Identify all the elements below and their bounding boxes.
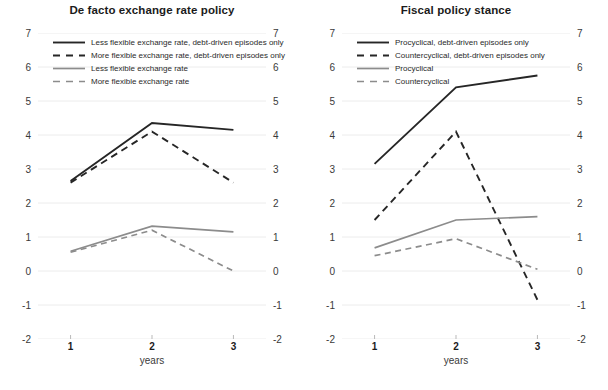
- legend-line-swatch: [52, 62, 86, 75]
- panel-fiscal-policy-stance: Fiscal policy stance -2-2-1-100112233445…: [304, 0, 608, 390]
- y-axis-tick-label-right: -1: [577, 300, 586, 311]
- legend-item: Less flexible exchange rate: [52, 62, 302, 75]
- legend-label: More flexible exchange rate, debt-driven…: [91, 49, 285, 62]
- y-axis-tick-label-left: 6: [25, 62, 31, 73]
- x-axis-tick-label: 2: [453, 341, 459, 352]
- legend-item: More flexible exchange rate, debt-driven…: [52, 49, 302, 62]
- x-axis-tick-label: 1: [372, 341, 378, 352]
- legend-line-swatch: [52, 36, 86, 49]
- series-line: [71, 230, 234, 271]
- y-axis-tick-label-left: 4: [329, 130, 335, 141]
- y-axis-tick-label-right: 3: [577, 164, 583, 175]
- y-axis-tick-label-left: 1: [25, 232, 31, 243]
- x-axis-tick-label: 3: [231, 341, 237, 352]
- legend-item: Less flexible exchange rate, debt-driven…: [52, 36, 302, 49]
- x-axis-label: years: [0, 355, 304, 366]
- x-axis-tick-label: 2: [149, 341, 155, 352]
- series-line: [375, 239, 538, 270]
- legend-line-swatch: [356, 36, 390, 49]
- y-axis-tick-label-right: 0: [273, 266, 279, 277]
- y-axis-tick-label-left: 6: [329, 62, 335, 73]
- legend-label: Less flexible exchange rate, debt-driven…: [91, 36, 284, 49]
- x-axis-tick-label: 1: [68, 341, 74, 352]
- legend-line-swatch: [356, 49, 390, 62]
- legend: Procyclical, debt-driven episodes onlyCo…: [356, 36, 606, 88]
- figure-two-panel-line-charts: De facto exchange rate policy -2-2-1-100…: [0, 0, 608, 390]
- series-line: [375, 76, 538, 164]
- series-line: [71, 132, 234, 183]
- legend-label: More flexible exchange rate: [91, 75, 189, 88]
- y-axis-tick-label-left: -1: [22, 300, 31, 311]
- y-axis-tick-label-left: 7: [329, 28, 335, 39]
- y-axis-tick-label-left: -2: [22, 334, 31, 345]
- y-axis-tick-label-left: -1: [326, 300, 335, 311]
- legend: Less flexible exchange rate, debt-driven…: [52, 36, 302, 88]
- y-axis-tick-label-left: 0: [329, 266, 335, 277]
- y-axis-tick-label-right: 2: [577, 198, 583, 209]
- legend-label: Countercyclical: [395, 75, 449, 88]
- y-axis-tick-label-left: 3: [25, 164, 31, 175]
- y-axis-tick-label-right: 3: [273, 164, 279, 175]
- y-axis-tick-label-left: 2: [25, 198, 31, 209]
- legend-label: Countercyclical, debt-driven episodes on…: [395, 49, 545, 62]
- y-axis-tick-label-left: 3: [329, 164, 335, 175]
- legend-item: Procyclical: [356, 62, 606, 75]
- panel-de-facto-exchange-rate-policy: De facto exchange rate policy -2-2-1-100…: [0, 0, 304, 390]
- y-axis-tick-label-right: -2: [577, 334, 586, 345]
- y-axis-tick-label-left: 4: [25, 130, 31, 141]
- legend-item: Countercyclical, debt-driven episodes on…: [356, 49, 606, 62]
- panel-title: De facto exchange rate policy: [0, 4, 304, 16]
- legend-item: More flexible exchange rate: [52, 75, 302, 88]
- y-axis-tick-label-left: 5: [25, 96, 31, 107]
- y-axis-tick-label-right: 4: [577, 130, 583, 141]
- legend-item: Countercyclical: [356, 75, 606, 88]
- legend-label: Less flexible exchange rate: [91, 62, 188, 75]
- y-axis-tick-label-left: 2: [329, 198, 335, 209]
- y-axis-tick-label-right: -1: [273, 300, 282, 311]
- legend-line-swatch: [52, 75, 86, 88]
- y-axis-tick-label-right: 5: [577, 96, 583, 107]
- series-line: [375, 217, 538, 248]
- y-axis-tick-label-left: 1: [329, 232, 335, 243]
- y-axis-tick-label-left: 5: [329, 96, 335, 107]
- y-axis-tick-label-right: -2: [273, 334, 282, 345]
- y-axis-tick-label-left: 0: [25, 266, 31, 277]
- y-axis-tick-label-right: 4: [273, 130, 279, 141]
- legend-line-swatch: [52, 49, 86, 62]
- x-axis-label: years: [304, 355, 608, 366]
- legend-item: Procyclical, debt-driven episodes only: [356, 36, 606, 49]
- legend-line-swatch: [356, 62, 390, 75]
- x-axis-tick-label: 3: [535, 341, 541, 352]
- y-axis-tick-label-right: 0: [577, 266, 583, 277]
- y-axis-tick-label-left: 7: [25, 28, 31, 39]
- y-axis-tick-label-right: 1: [273, 232, 279, 243]
- legend-label: Procyclical, debt-driven episodes only: [395, 36, 529, 49]
- y-axis-tick-label-right: 5: [273, 96, 279, 107]
- legend-label: Procyclical: [395, 62, 433, 75]
- panel-title: Fiscal policy stance: [304, 4, 608, 16]
- legend-line-swatch: [356, 75, 390, 88]
- series-line: [375, 132, 538, 300]
- y-axis-tick-label-right: 1: [577, 232, 583, 243]
- y-axis-tick-label-left: -2: [326, 334, 335, 345]
- y-axis-tick-label-right: 2: [273, 198, 279, 209]
